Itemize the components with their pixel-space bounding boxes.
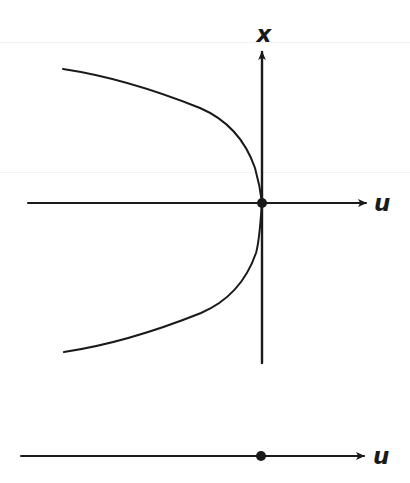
lower-branch-curve — [64, 203, 262, 352]
origin-point — [257, 198, 267, 208]
upper-branch-curve — [63, 69, 262, 203]
bottom-line-point — [256, 451, 266, 461]
bifurcation-figure: x u u — [0, 0, 410, 483]
parameter-u-axis-label: u — [373, 443, 389, 469]
x-axis-label: x — [256, 21, 273, 47]
figure-canvas: x u u — [0, 0, 410, 483]
parameter-line-panel: u — [21, 443, 389, 469]
phase-plane-panel: x u — [28, 21, 390, 363]
u-axis-label: u — [374, 190, 390, 216]
